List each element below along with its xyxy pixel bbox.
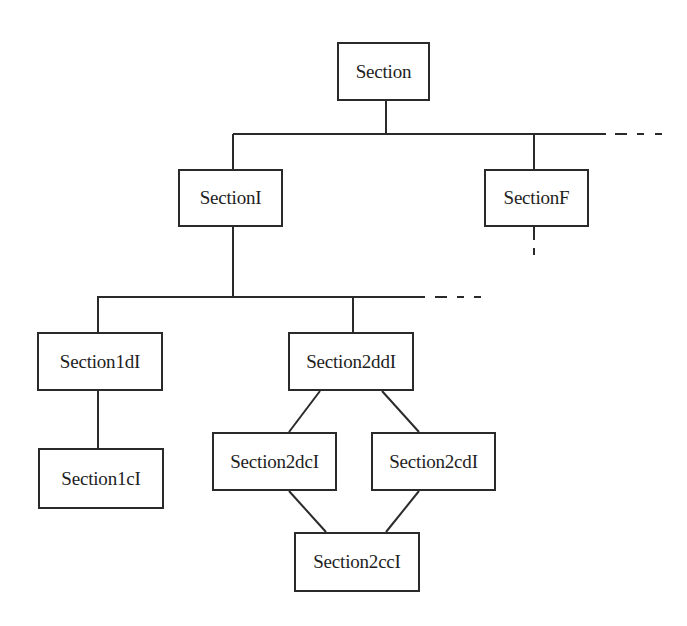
node-sectionI: SectionI (178, 169, 283, 227)
node-section2cdI: Section2cdI (371, 432, 496, 491)
node-label: Section (356, 61, 412, 83)
node-label: Section2ddI (306, 351, 396, 373)
node-label: Section1dI (60, 351, 140, 373)
node-label: Section2dcI (230, 451, 319, 473)
node-label: SectionF (504, 187, 570, 209)
node-section: Section (337, 42, 430, 101)
node-sectionF: SectionF (484, 169, 589, 227)
node-label: Section2cdI (389, 451, 478, 473)
node-section2ccI: Section2ccI (294, 532, 420, 592)
node-label: Section2ccI (313, 551, 400, 573)
edge-section2ddI-to-section2cdI (382, 391, 419, 432)
section-hierarchy-diagram: Section SectionI SectionF Section1dI Sec… (0, 0, 687, 626)
node-section2dcI: Section2dcI (212, 432, 337, 491)
node-section1dI: Section1dI (37, 332, 163, 391)
edge-section2ddI-to-section2dcI (289, 391, 320, 432)
node-label: Section1cI (61, 468, 140, 490)
node-section1cI: Section1cI (38, 448, 164, 509)
edge-section2cdI-to-section2ccI (386, 491, 419, 532)
node-label: SectionI (200, 187, 262, 209)
edge-section2dcI-to-section2ccI (289, 491, 326, 532)
node-section2ddI: Section2ddI (288, 332, 414, 391)
